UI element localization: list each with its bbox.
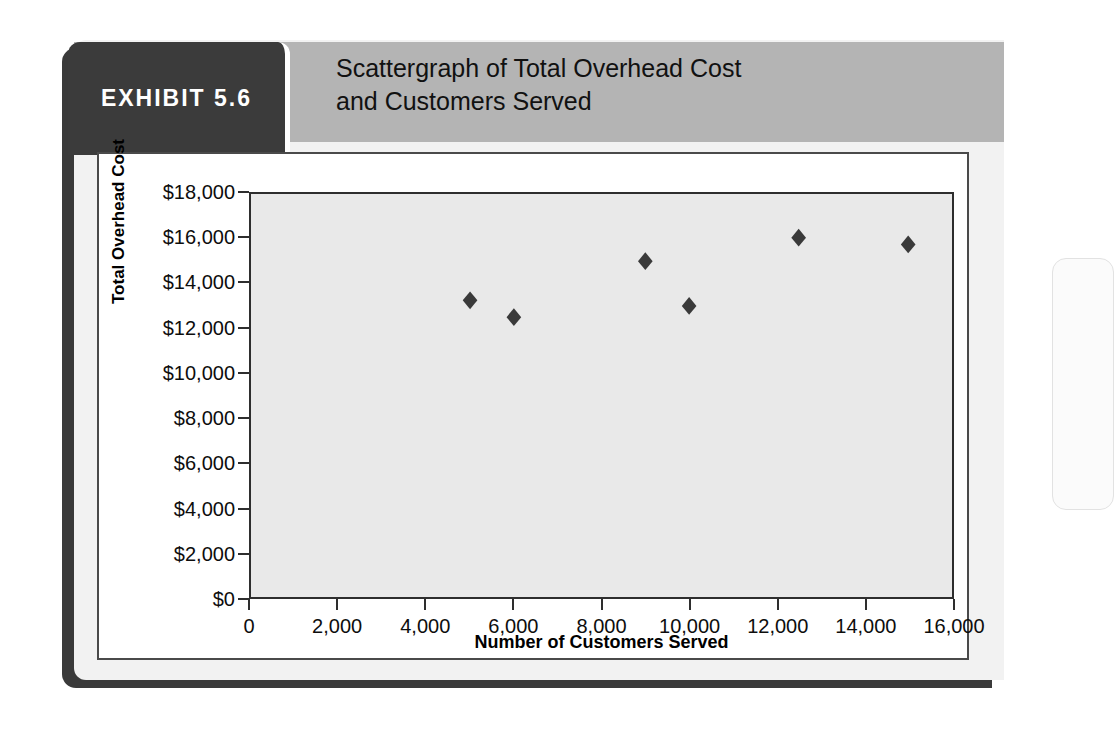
x-axis-tick	[248, 599, 250, 610]
exhibit-number-badge: EXHIBIT 5.6	[68, 42, 290, 155]
scatter-markers	[251, 194, 952, 597]
y-axis-tick	[238, 462, 249, 464]
scatter-point	[791, 229, 806, 247]
y-axis-tick	[238, 508, 249, 510]
y-axis-tick-label: $6,000	[174, 452, 235, 475]
y-axis-tick	[238, 327, 249, 329]
y-axis-tick-label: $18,000	[163, 181, 235, 204]
x-axis-tick	[512, 599, 514, 610]
y-axis-tick-label: $8,000	[174, 407, 235, 430]
scatter-point	[463, 291, 478, 309]
scatter-point	[638, 252, 653, 270]
x-axis-tick	[953, 599, 955, 610]
y-axis-tick	[238, 236, 249, 238]
exhibit-title-line-2: and Customers Served	[336, 85, 896, 118]
y-axis-tick	[238, 281, 249, 283]
x-axis-tick	[424, 599, 426, 610]
x-axis-title: Number of Customers Served	[249, 632, 954, 653]
exhibit-title-line-1: Scattergraph of Total Overhead Cost	[336, 52, 896, 85]
y-axis-tick	[238, 417, 249, 419]
page-edge-artifact	[1052, 258, 1114, 510]
y-axis-tick-label: $0	[213, 588, 235, 611]
scatter-point	[507, 308, 522, 326]
y-axis-tick-label: $12,000	[163, 316, 235, 339]
scatter-point	[682, 297, 697, 315]
x-axis-tick	[865, 599, 867, 610]
x-axis-tick	[689, 599, 691, 610]
scatter-point	[901, 235, 916, 253]
exhibit-title: Scattergraph of Total Overhead Cost and …	[336, 52, 896, 118]
x-axis-tick	[601, 599, 603, 610]
y-axis-tick	[238, 553, 249, 555]
y-axis-tick-label: $14,000	[163, 271, 235, 294]
y-axis-tick	[238, 191, 249, 193]
scatter-plot-area	[249, 192, 954, 599]
x-axis-tick	[777, 599, 779, 610]
y-axis-title: Total Overhead Cost	[109, 139, 129, 304]
y-axis-tick	[238, 372, 249, 374]
x-axis-tick	[336, 599, 338, 610]
y-axis-tick-label: $10,000	[163, 361, 235, 384]
y-axis-tick-label: $4,000	[174, 497, 235, 520]
y-axis-tick-label: $2,000	[174, 542, 235, 565]
chart-panel: Total Overhead Cost $0$2,000$4,000$6,000…	[97, 152, 969, 660]
y-axis-tick-label: $16,000	[163, 226, 235, 249]
exhibit-number-label: EXHIBIT 5.6	[101, 85, 252, 112]
